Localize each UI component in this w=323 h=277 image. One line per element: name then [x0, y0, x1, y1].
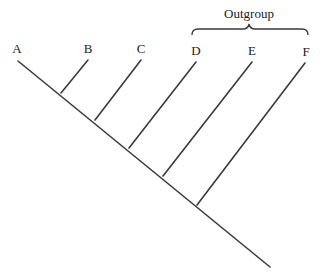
branch-e	[163, 62, 252, 176]
taxon-label-b: B	[84, 41, 93, 56]
taxon-label-c: C	[137, 41, 146, 56]
branch-a-trunk	[18, 61, 270, 267]
taxon-label-f: F	[302, 44, 309, 59]
taxon-label-d: D	[191, 43, 200, 58]
branch-f	[197, 63, 305, 205]
outgroup-brace	[192, 24, 308, 35]
taxon-label-a: A	[12, 41, 22, 56]
branch-d	[129, 62, 196, 148]
branch-c	[95, 60, 141, 120]
taxon-label-e: E	[248, 43, 256, 58]
branch-b	[61, 60, 88, 93]
outgroup-label: Outgroup	[224, 6, 274, 21]
cladogram: Outgroup A B C D E F	[0, 0, 323, 277]
